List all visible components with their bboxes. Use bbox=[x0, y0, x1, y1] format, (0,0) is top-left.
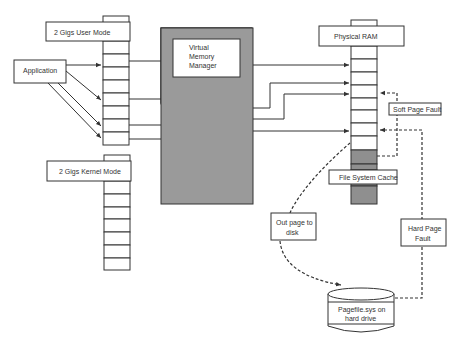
file-system-cache-box: File System Cache bbox=[329, 170, 398, 184]
vmm-label-line3: Manager bbox=[189, 62, 217, 70]
kernel-mode-label: 2 Gigs Kernel Mode bbox=[59, 168, 121, 176]
physical-ram-label: Physical RAM bbox=[334, 33, 378, 41]
user-to-vmm-lines bbox=[129, 61, 161, 139]
soft-page-fault-label: Soft Page Fault bbox=[393, 106, 441, 114]
pagefile-label-line1: Pagefile.sys on bbox=[338, 306, 386, 314]
vmm-label-line2: Memory bbox=[189, 53, 215, 61]
vmm-label-line1: Virtual bbox=[189, 44, 209, 51]
file-system-cache-label: File System Cache bbox=[339, 174, 398, 182]
out-page-path: Out page to disk bbox=[271, 143, 350, 285]
pagefile-label-line2: hard drive bbox=[345, 315, 376, 322]
out-page-label-line1: Out page to bbox=[276, 219, 313, 227]
hard-page-fault-label-line1: Hard Page bbox=[408, 225, 442, 233]
user-mode-label: 2 Gigs User Mode bbox=[54, 29, 111, 37]
application-label: Application bbox=[23, 67, 57, 75]
kernel-mode-label-box: 2 Gigs Kernel Mode bbox=[47, 161, 131, 181]
hard-page-fault-label-line2: Fault bbox=[415, 235, 431, 242]
hard-page-fault-path: Hard Page Fault bbox=[380, 130, 446, 298]
out-page-label-line2: disk bbox=[286, 229, 299, 236]
physical-ram-label-box: Physical RAM bbox=[319, 26, 404, 46]
vmm-label-box: Virtual Memory Manager bbox=[173, 39, 240, 77]
user-mode-label-box: 2 Gigs User Mode bbox=[46, 22, 130, 41]
application-box: Application bbox=[14, 60, 66, 83]
soft-page-fault-path: Soft Page Fault bbox=[377, 93, 441, 156]
pagefile-cylinder: Pagefile.sys on hard drive bbox=[328, 288, 394, 332]
memory-diagram: 2 Gigs User Mode 2 Gigs Kernel Mode Appl… bbox=[0, 0, 460, 345]
vmm-to-ram-arrows bbox=[253, 65, 349, 131]
